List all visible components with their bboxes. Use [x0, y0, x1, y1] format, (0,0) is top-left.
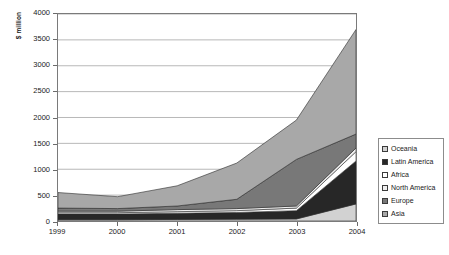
legend-item-label: Oceania	[391, 145, 417, 152]
legend-swatch-icon	[382, 198, 388, 204]
legend-item-africa[interactable]: Africa	[382, 168, 440, 181]
x-tick-mark	[237, 222, 238, 226]
x-tick-mark	[177, 222, 178, 226]
x-tick-label: 2001	[157, 228, 197, 236]
x-tick-mark	[117, 222, 118, 226]
y-tick-label: 1500	[18, 140, 50, 148]
legend-swatch-icon	[382, 146, 388, 152]
legend-item-label: Asia	[391, 210, 405, 217]
legend-item-label: Africa	[391, 171, 409, 178]
legend-swatch-icon	[382, 159, 388, 165]
legend-item-north-america[interactable]: North America	[382, 181, 440, 194]
legend-item-asia[interactable]: Asia	[382, 207, 440, 220]
plot-svg	[58, 14, 356, 221]
legend-item-latin-america[interactable]: Latin America	[382, 155, 440, 168]
y-tick-label: 2500	[18, 87, 50, 95]
y-tick-label: 4000	[18, 9, 50, 17]
x-tick-mark	[57, 222, 58, 226]
x-tick-label: 2000	[97, 228, 137, 236]
y-tick-label: 2000	[18, 114, 50, 122]
y-tick-label: 1000	[18, 166, 50, 174]
x-tick-label: 2003	[277, 228, 317, 236]
legend-item-label: Latin America	[391, 158, 433, 165]
y-tick-label: 0	[18, 218, 50, 226]
x-tick-label: 1999	[37, 228, 77, 236]
legend-item-label: Europe	[391, 197, 414, 204]
legend-swatch-icon	[382, 211, 388, 217]
legend-swatch-icon	[382, 185, 388, 191]
stacked-area-chart: $ million 050010001500200025003000350040…	[0, 0, 449, 255]
x-tick-mark	[297, 222, 298, 226]
legend-item-europe[interactable]: Europe	[382, 194, 440, 207]
y-tick-label: 500	[18, 192, 50, 200]
x-tick-label: 2002	[217, 228, 257, 236]
y-tick-label: 3000	[18, 61, 50, 69]
legend-item-label: North America	[391, 184, 435, 191]
legend-swatch-icon	[382, 172, 388, 178]
area-series-group	[58, 30, 356, 221]
legend: OceaniaLatin AmericaAfricaNorth AmericaE…	[378, 138, 444, 224]
plot-area	[57, 13, 357, 222]
y-tick-label: 3500	[18, 35, 50, 43]
x-tick-label: 2004	[337, 228, 377, 236]
legend-item-oceania[interactable]: Oceania	[382, 142, 440, 155]
x-tick-mark	[357, 222, 358, 226]
